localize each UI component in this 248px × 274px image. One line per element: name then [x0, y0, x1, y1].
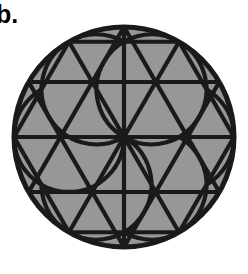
geometric-diagram	[0, 0, 248, 274]
figure-label: b.	[0, 2, 18, 27]
figure-container: b.	[0, 0, 248, 274]
